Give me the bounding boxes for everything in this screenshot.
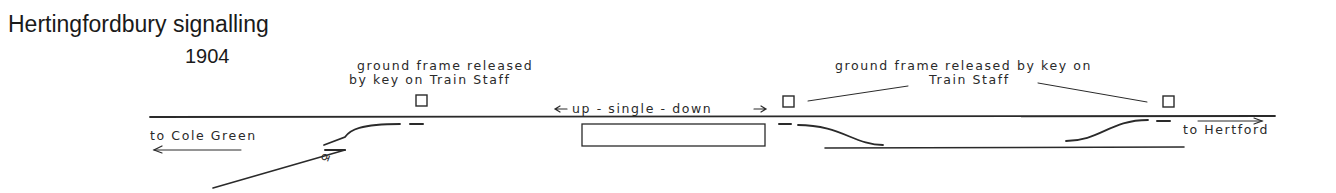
left-frame-label-line1: ground frame released (357, 58, 533, 73)
single-line-label: up - single - down (572, 101, 712, 116)
main-running-line (150, 116, 1275, 117)
leader-line-middle (808, 86, 908, 101)
siding-curve-middle (798, 125, 883, 145)
right-frame-label-line2: Train Staff (928, 72, 1010, 87)
lever-marker: ю (319, 150, 332, 165)
ground-frame-left-icon (416, 95, 427, 106)
arrow-up-single-icon (555, 106, 567, 112)
loop-siding (825, 147, 1184, 148)
to-hertford-label: to Hertford (1183, 122, 1269, 137)
siding-curve-right (1066, 120, 1148, 141)
siding-curve-left (324, 124, 400, 145)
leader-line-right (1038, 83, 1147, 102)
track-diagram: ground frame released by key on Train St… (0, 0, 1336, 193)
right-frame-label-line1: ground frame released by key on (835, 58, 1092, 73)
arrow-down-single-icon (754, 106, 766, 112)
ground-frame-middle-icon (783, 96, 794, 107)
left-frame-label-line2: by key on Train Staff (349, 72, 511, 87)
platform (582, 124, 765, 146)
to-cole-green-label: to Cole Green (150, 128, 257, 143)
ground-frame-right-icon (1163, 96, 1174, 107)
